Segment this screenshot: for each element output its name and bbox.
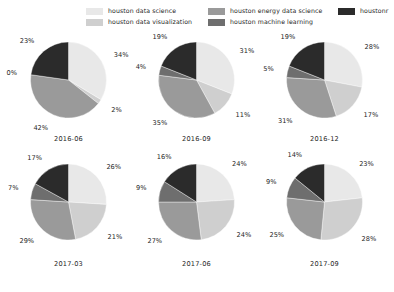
legend-entry[interactable]: houston energy data science [208,7,322,15]
legend-swatch-icon [86,8,103,15]
pie-chart-2016-09: 31%11%35%4%19%2016-09 [131,28,262,151]
pie-chart-figure: houston data sciencehouston data visuali… [0,0,394,292]
slice-percent-label: 27% [147,237,162,245]
slice-percent-label: 31% [240,47,255,55]
legend-label: houston energy data science [230,7,322,15]
pie-slice[interactable] [197,164,235,202]
pie-period-label: 2017-06 [131,260,262,268]
pie-slice[interactable] [159,202,202,240]
slice-percent-label: 11% [236,111,251,119]
slice-percent-label: 17% [364,111,379,119]
slice-percent-label: 25% [269,231,284,239]
legend-swatch-icon [208,8,225,15]
slice-percent-label: 9% [266,178,276,186]
slice-percent-label: 21% [108,233,123,241]
legend-swatch-icon [86,19,103,26]
legend-label: houston data science [108,7,176,15]
slice-percent-label: 34% [114,51,129,59]
legend-label: houston machine learning [230,18,313,26]
pie-svg: 34%2%42%0%23% [3,28,134,151]
legend-entry[interactable]: houstonr [338,7,388,15]
chart-legend: houston data sciencehouston data visuali… [0,4,394,28]
legend-entry[interactable]: houston data science [86,7,176,15]
slice-percent-label: 5% [263,65,273,73]
pie-slice[interactable] [325,164,363,202]
slice-percent-label: 24% [232,160,247,168]
pie-period-label: 2016-06 [3,135,134,143]
slice-percent-label: 17% [27,154,42,162]
legend-label: houston data visualization [108,18,192,26]
pie-period-label: 2017-09 [259,260,390,268]
slice-percent-label: 29% [19,237,34,245]
pie-svg: 31%11%35%4%19% [131,28,262,151]
slice-percent-label: 26% [106,163,121,171]
slice-percent-label: 2% [111,106,121,114]
legend-label: houstonr [360,7,388,15]
slice-percent-label: 42% [33,124,48,132]
pie-svg: 24%24%27%9%16% [131,150,262,273]
slice-percent-label: 35% [153,119,168,127]
pie-chart-2017-06: 24%24%27%9%16%2017-06 [131,150,262,273]
legend-swatch-icon [208,19,225,26]
pie-svg: 26%21%29%7%17% [3,150,134,273]
pie-slice[interactable] [325,42,363,87]
pie-svg: 28%17%31%5%19% [259,28,390,151]
pie-period-label: 2016-12 [259,135,390,143]
slice-percent-label: 19% [281,33,296,41]
legend-entry[interactable]: houston data visualization [86,18,192,26]
pie-slice[interactable] [69,164,107,204]
legend-entry[interactable]: houston machine learning [208,18,313,26]
pie-slice[interactable] [287,198,325,240]
slice-percent-label: 31% [278,117,293,125]
slice-percent-label: 16% [157,153,172,161]
slice-percent-label: 28% [365,43,380,51]
pie-chart-2016-12: 28%17%31%5%19%2016-12 [259,28,390,151]
pie-slice[interactable] [31,200,76,240]
slice-percent-label: 24% [237,231,252,239]
slice-percent-label: 9% [136,184,146,192]
pie-period-label: 2016-09 [131,135,262,143]
slice-percent-label: 23% [20,37,35,45]
pie-period-label: 2017-03 [3,260,134,268]
pie-slice[interactable] [197,200,235,240]
pie-svg: 23%28%25%9%14% [259,150,390,273]
pie-slice[interactable] [31,42,69,80]
slice-percent-label: 14% [287,151,302,159]
slice-percent-label: 4% [136,63,146,71]
slice-percent-label: 28% [362,235,377,243]
pie-chart-2017-03: 26%21%29%7%17%2017-03 [3,150,134,273]
legend-swatch-icon [338,8,355,15]
slice-percent-label: 0% [7,69,17,77]
pie-slice[interactable] [321,198,363,240]
pie-chart-2016-06: 34%2%42%0%23%2016-06 [3,28,134,151]
slice-percent-label: 7% [8,184,18,192]
slice-percent-label: 23% [359,160,374,168]
pie-chart-2017-09: 23%28%25%9%14%2017-09 [259,150,390,273]
slice-percent-label: 19% [153,33,168,41]
